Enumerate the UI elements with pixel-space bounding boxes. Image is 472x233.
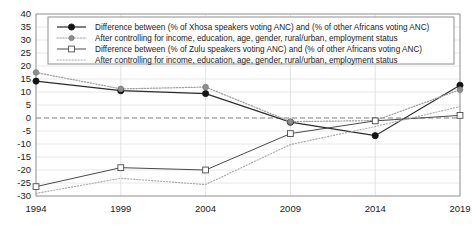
data-point-marker [33,70,39,76]
y-axis-tick-label: -10 [17,138,31,149]
data-point-marker [33,184,39,190]
y-axis-tick-label: -5 [23,125,31,136]
series-line-1 [36,81,460,136]
x-axis-labels: 199419992004200920142019 [25,203,470,214]
x-axis-tick-label: 2014 [365,203,386,214]
y-axis-tick-label: -30 [17,190,31,201]
legend-sample-marker [69,35,74,40]
x-axis-tick-label: 1999 [110,203,131,214]
legend-item-label: Difference between (% of Zulu speakers v… [95,45,422,54]
data-point-marker [33,78,39,84]
y-axis-tick-label: -15 [17,151,31,162]
series-line-3 [36,115,460,186]
legend-item-label: After controlling for income, education,… [95,34,398,43]
x-axis-tick-label: 2019 [449,203,470,214]
chart-legend: Difference between (% of Xhosa speakers … [48,17,454,65]
legend-item-3[interactable]: Difference between (% of Zulu speakers v… [57,45,422,54]
legend-sample-marker [69,46,75,52]
legend-sample-marker [68,24,74,30]
legend-item-1[interactable]: Difference between (% of Xhosa speakers … [57,23,430,32]
data-point-marker [457,87,463,93]
y-axis-tick-label: 0 [26,112,31,123]
data-point-marker [118,165,124,171]
y-axis-tick-label: 10 [20,86,31,97]
series-line-2 [36,73,460,122]
y-axis-tick-label: 40 [20,8,31,19]
data-point-marker [372,133,378,139]
legend-item-label: After controlling for income, education,… [95,56,398,65]
y-axis-tick-label: 15 [20,73,31,84]
y-axis-tick-label: 20 [20,60,31,71]
x-axis-tick-label: 1994 [25,203,46,214]
legend-item-label: Difference between (% of Xhosa speakers … [95,23,430,32]
legend-item-2[interactable]: After controlling for income, education,… [57,34,398,43]
legend-item-4[interactable]: After controlling for income, education,… [57,56,398,65]
y-axis-tick-label: -20 [17,164,31,175]
data-point-marker [203,84,209,90]
data-point-marker [288,131,294,137]
y-axis-tick-label: 5 [26,99,31,110]
x-axis-tick-label: 2009 [280,203,301,214]
y-axis-tick-label: 25 [20,47,31,58]
series-layer [36,73,460,194]
y-axis-labels: 4035302520151050-5-10-15-20-25-30 [17,8,31,201]
y-axis-tick-label: -25 [17,177,31,188]
data-point-marker [203,90,209,96]
data-point-marker [372,118,378,124]
line-chart: 4035302520151050-5-10-15-20-25-30 199419… [0,0,472,233]
data-point-marker [118,86,124,92]
data-point-marker [288,119,294,125]
chart-canvas: 4035302520151050-5-10-15-20-25-30 199419… [0,0,472,233]
data-point-marker [457,113,463,119]
y-axis-tick-label: 35 [20,21,31,32]
x-axis-tick-label: 2004 [195,203,216,214]
y-axis-tick-label: 30 [20,34,31,45]
data-point-marker [203,167,209,173]
